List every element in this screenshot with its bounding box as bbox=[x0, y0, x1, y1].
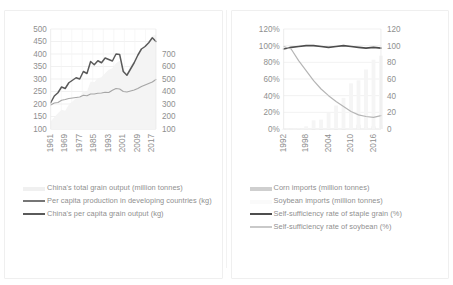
x-axis-tick-label: 1961 bbox=[46, 134, 55, 153]
legend-swatch-china-per-capita bbox=[23, 210, 45, 219]
legend-item[interactable]: Self-sufficiency rate of staple grain (%… bbox=[250, 209, 443, 219]
grain-output-svg: 1001001502002003002504003005003506004007… bbox=[5, 11, 222, 179]
legend-item[interactable]: Corn imports (million tonnes) bbox=[250, 183, 443, 193]
x-axis-tick-label: 2009 bbox=[133, 134, 142, 153]
dual-chart-figure: 1001001502002003002504003005003506004007… bbox=[0, 0, 453, 285]
left-legend: China's total grain output (million tonn… bbox=[5, 179, 222, 278]
series-bar bbox=[326, 112, 330, 129]
series-bar bbox=[311, 120, 315, 129]
legend-item[interactable]: China's per capita grain output (kg) bbox=[23, 209, 216, 219]
y-axis-left-tick-label: 400 bbox=[33, 50, 47, 59]
x-axis-tick-label: 2001 bbox=[118, 134, 127, 153]
legend-swatch-staple-grain-rate bbox=[250, 210, 272, 219]
left-panel: 1001001502002003002504003005003506004007… bbox=[0, 0, 227, 285]
y-axis-left-tick-label: 40% bbox=[263, 92, 279, 101]
y-axis-left-tick-label: 100% bbox=[258, 42, 279, 51]
legend-label: Self-sufficiency rate of soybean (%) bbox=[274, 222, 392, 232]
right-panel-frame: 0%020%2040%4060%6080%80100%100120%120199… bbox=[231, 10, 450, 279]
left-panel-frame: 1001001502002003002504003005003506004007… bbox=[4, 10, 223, 279]
y-axis-right-tick-label: 500 bbox=[162, 75, 176, 84]
series-bar bbox=[319, 120, 323, 129]
y-axis-left-tick-label: 250 bbox=[33, 87, 47, 96]
y-axis-right-tick-label: 100 bbox=[162, 125, 176, 134]
legend-label: Corn imports (million tonnes) bbox=[274, 183, 370, 193]
right-legend: Corn imports (million tonnes) Soybean im… bbox=[232, 179, 449, 278]
legend-item[interactable]: Self-sufficiency rate of soybean (%) bbox=[250, 222, 443, 232]
x-axis-tick-label: 1969 bbox=[60, 134, 69, 153]
x-axis-tick-label: 1993 bbox=[104, 134, 113, 153]
legend-swatch-soybean-imports bbox=[250, 197, 272, 206]
y-axis-right-tick-label: 0 bbox=[386, 125, 391, 134]
x-axis-tick-label: 1998 bbox=[301, 134, 310, 153]
y-axis-right-tick-label: 600 bbox=[162, 62, 176, 71]
legend-item[interactable]: Per capita production in developing coun… bbox=[23, 196, 216, 206]
series-bar bbox=[349, 83, 353, 129]
y-axis-right-tick-label: 200 bbox=[162, 112, 176, 121]
self-sufficiency-plot: 0%020%2040%4060%6080%80100%100120%120199… bbox=[232, 11, 449, 179]
legend-label: Soybean imports (million tonnes) bbox=[274, 196, 383, 206]
y-axis-left-tick-label: 20% bbox=[263, 108, 279, 117]
y-axis-left-tick-label: 500 bbox=[33, 25, 47, 34]
legend-swatch-total-grain-output bbox=[23, 184, 45, 193]
y-axis-right-tick-label: 120 bbox=[386, 25, 400, 34]
x-axis-tick-label: 2004 bbox=[323, 134, 332, 153]
y-axis-left-tick-label: 120% bbox=[258, 25, 279, 34]
y-axis-right-tick-label: 20 bbox=[386, 108, 396, 117]
legend-swatch-developing-per-capita bbox=[23, 197, 45, 206]
series-bar bbox=[356, 80, 360, 129]
series-bar bbox=[296, 128, 300, 129]
y-axis-right-tick-label: 80 bbox=[386, 58, 396, 67]
y-axis-left-tick-label: 350 bbox=[33, 62, 47, 71]
y-axis-left-tick-label: 200 bbox=[33, 100, 47, 109]
y-axis-right-tick-label: 700 bbox=[162, 50, 176, 59]
y-axis-right-tick-label: 60 bbox=[386, 75, 396, 84]
right-panel: 0%020%2040%4060%6080%80100%100120%120199… bbox=[227, 0, 453, 285]
x-axis-tick-label: 2016 bbox=[368, 134, 377, 153]
legend-label: China's total grain output (million tonn… bbox=[47, 183, 183, 193]
y-axis-left-tick-label: 60% bbox=[263, 75, 279, 84]
legend-label: Per capita production in developing coun… bbox=[47, 196, 212, 206]
y-axis-right-tick-label: 300 bbox=[162, 100, 176, 109]
y-axis-right-tick-label: 40 bbox=[386, 92, 396, 101]
panel-divider bbox=[226, 10, 227, 268]
legend-label: China's per capita grain output (kg) bbox=[47, 209, 164, 219]
x-axis-tick-label: 2017 bbox=[147, 134, 156, 153]
y-axis-left-tick-label: 150 bbox=[33, 112, 47, 121]
x-axis-tick-label: 1992 bbox=[278, 134, 287, 153]
y-axis-right-tick-label: 400 bbox=[162, 87, 176, 96]
series-line bbox=[283, 46, 380, 49]
y-axis-left-tick-label: 80% bbox=[263, 58, 279, 67]
series-bar bbox=[304, 126, 308, 129]
series-bar bbox=[334, 106, 338, 130]
grain-output-plot: 1001001502002003002504003005003506004007… bbox=[5, 11, 222, 179]
legend-label: Self-sufficiency rate of staple grain (%… bbox=[274, 209, 402, 219]
x-axis-tick-label: 2010 bbox=[346, 134, 355, 153]
y-axis-left-tick-label: 450 bbox=[33, 37, 47, 46]
legend-swatch-corn-imports bbox=[250, 184, 272, 193]
series-bar bbox=[371, 60, 375, 129]
y-axis-left-tick-label: 300 bbox=[33, 75, 47, 84]
series-bar bbox=[364, 70, 368, 130]
legend-item[interactable]: Soybean imports (million tonnes) bbox=[250, 196, 443, 206]
x-axis-tick-label: 1977 bbox=[75, 134, 84, 153]
self-sufficiency-svg: 0%020%2040%4060%6080%80100%100120%120199… bbox=[232, 11, 449, 179]
legend-swatch-soybean-rate bbox=[250, 223, 272, 232]
y-axis-left-tick-label: 0% bbox=[267, 125, 279, 134]
y-axis-right-tick-label: 100 bbox=[386, 42, 400, 51]
legend-item[interactable]: China's total grain output (million tonn… bbox=[23, 183, 216, 193]
y-axis-left-tick-label: 100 bbox=[33, 125, 47, 134]
x-axis-tick-label: 1985 bbox=[89, 134, 98, 153]
series-bar bbox=[341, 98, 345, 129]
